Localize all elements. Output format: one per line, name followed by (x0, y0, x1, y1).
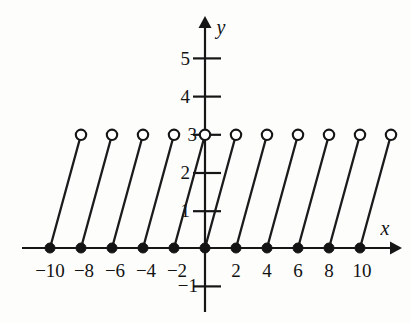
x-tick-label-10: 10 (353, 260, 372, 281)
x-tick-label-2: 2 (231, 260, 241, 281)
y-axis-label: y (215, 16, 226, 39)
open-point-marker (231, 130, 241, 140)
closed-point-marker (45, 243, 55, 253)
closed-point-marker (76, 243, 86, 253)
y-tick-label-5: 5 (181, 48, 191, 69)
closed-point-marker (107, 243, 117, 253)
open-point-marker (355, 130, 365, 140)
sawtooth-function-plot: 5 4 3 2 1 −1 −10 −8 −6 −4 −2 2 4 6 8 10 … (0, 0, 410, 323)
x-tick-label-4: 4 (262, 260, 272, 281)
open-point-marker (293, 130, 303, 140)
graph-figure: 5 4 3 2 1 −1 −10 −8 −6 −4 −2 2 4 6 8 10 … (0, 0, 410, 323)
closed-point-marker (138, 243, 148, 253)
open-point-marker (107, 130, 117, 140)
closed-point-marker (169, 243, 179, 253)
x-tick-label-6: 6 (293, 260, 303, 281)
open-point-marker (324, 130, 334, 140)
x-tick-label-8: 8 (324, 260, 334, 281)
open-point-marker (200, 130, 210, 140)
x-tick-label-minus-4: −4 (136, 260, 157, 281)
y-tick-label-1: 1 (181, 200, 191, 221)
y-tick-label-4: 4 (181, 86, 191, 107)
open-point-marker (76, 130, 86, 140)
closed-point-marker (231, 243, 241, 253)
y-tick-label-2: 2 (181, 162, 191, 183)
closed-point-marker (324, 243, 334, 253)
x-tick-label-minus-10: −10 (35, 260, 65, 281)
open-point-marker (169, 130, 179, 140)
x-tick-label-minus-8: −8 (74, 260, 94, 281)
open-point-marker (138, 130, 148, 140)
closed-point-marker (200, 243, 210, 253)
closed-point-marker (293, 243, 303, 253)
x-tick-label-minus-2: −2 (167, 260, 187, 281)
open-point-marker (262, 130, 272, 140)
closed-point-marker (355, 243, 365, 253)
closed-point-marker (262, 243, 272, 253)
open-point-marker (386, 130, 396, 140)
x-axis-label: x (380, 217, 390, 239)
x-tick-label-minus-6: −6 (105, 260, 125, 281)
y-tick-label-3: 3 (188, 124, 198, 145)
